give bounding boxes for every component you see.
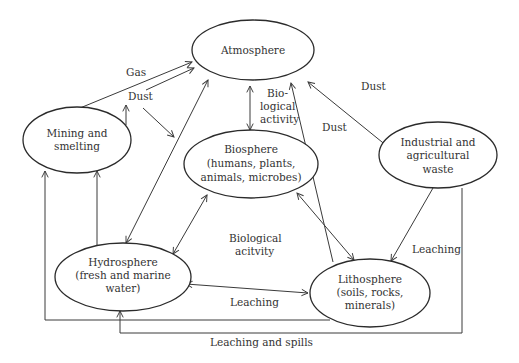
label-bio-activity-bottom-1: Biological [229, 232, 282, 244]
svg-text:minerals): minerals) [345, 299, 395, 311]
node-lithosphere: Lithosphere (soils, rocks, minerals) [310, 259, 430, 327]
svg-text:Hydrosphere: Hydrosphere [88, 256, 157, 268]
svg-text:Biosphere: Biosphere [224, 143, 278, 155]
node-atmosphere: Atmosphere [192, 20, 314, 80]
svg-text:water): water) [106, 282, 141, 294]
svg-text:waste: waste [422, 163, 453, 175]
label-bio-activity-top-2: logical [260, 100, 296, 112]
label-leaching-right: Leaching [412, 243, 461, 255]
label-leaching-bottom: Leaching [230, 296, 279, 308]
label-dust-industrial: Dust [361, 80, 387, 92]
label-leaching-and-spills: Leaching and spills [210, 336, 313, 348]
node-industrial: Industrial and agricultural waste [379, 122, 497, 188]
svg-text:smelting: smelting [54, 140, 100, 152]
label-gas: Gas [126, 66, 146, 78]
label-bio-activity-top-3: activity [260, 113, 299, 125]
label-dust-center: Dust [322, 121, 348, 133]
svg-text:Lithosphere: Lithosphere [338, 273, 402, 285]
node-hydrosphere: Hydrosphere (fresh and marine water) [55, 243, 191, 311]
svg-text:(fresh and marine: (fresh and marine [75, 269, 170, 281]
edge-biosphere-hydrosphere [173, 195, 207, 254]
label-dust-mining: Dust [128, 90, 154, 102]
svg-text:(soils, rocks,: (soils, rocks, [337, 286, 404, 298]
svg-text:Industrial and: Industrial and [400, 136, 475, 148]
svg-text:agricultural: agricultural [407, 149, 471, 161]
svg-text:Mining and: Mining and [47, 127, 108, 139]
edge-biosphere-lithosphere [297, 193, 354, 260]
label-bio-activity-top-1: Bio- [267, 87, 288, 99]
environment-flow-diagram: Atmosphere Mining and smelting Biosphere… [0, 0, 519, 363]
svg-text:(humans, plants,: (humans, plants, [207, 157, 296, 169]
edge-dust-down [143, 108, 174, 137]
edge-hydrosphere-lithosphere [186, 284, 308, 293]
svg-text:animals, microbes): animals, microbes) [201, 171, 302, 183]
svg-text:Atmosphere: Atmosphere [220, 44, 285, 56]
label-bio-activity-bottom-2: acitvity [235, 245, 274, 257]
node-biosphere: Biosphere (humans, plants, animals, micr… [184, 130, 318, 198]
node-mining: Mining and smelting [23, 107, 131, 173]
